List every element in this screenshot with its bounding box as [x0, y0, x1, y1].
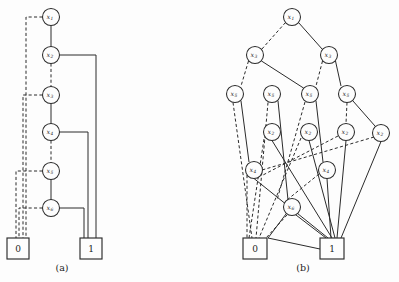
- node-sub-b6: 6: [291, 206, 294, 211]
- high-edge-b-13: [268, 214, 320, 249]
- decision-node-a-a1[interactable]: x1: [43, 9, 60, 26]
- high-edge-b-3: [241, 101, 249, 162]
- decision-node-b-b3L[interactable]: x3: [247, 47, 264, 64]
- decision-node-b-b3R[interactable]: x3: [321, 47, 338, 64]
- decision-node-b-b1[interactable]: x1: [284, 9, 301, 26]
- high-edge-b-12: [327, 179, 331, 239]
- high-edge-b-6: [353, 101, 375, 126]
- decision-node-b-b5d[interactable]: x5: [339, 86, 356, 103]
- node-sub-b4L: 4: [252, 169, 256, 174]
- node-sub-b2b: 2: [307, 131, 311, 136]
- terminal-group-b: 01: [243, 238, 344, 259]
- node-sub-b5b: 5: [271, 93, 274, 98]
- decision-node-b-b5a[interactable]: x5: [227, 86, 244, 103]
- low-edge-b-0: [262, 23, 286, 50]
- high-edge-b-2: [336, 61, 342, 86]
- panel-b: x1x3x3x5x5x5x5x2x2x2x2x4x4x601(b): [227, 9, 390, 273]
- panel-caption-b: (b): [296, 262, 310, 273]
- node-sub-b4R: 4: [325, 169, 329, 174]
- low-edge-a-4: [16, 171, 43, 238]
- terminal-node-b-bT1[interactable]: 1: [320, 238, 344, 259]
- decision-node-b-b4L[interactable]: x4: [246, 162, 263, 179]
- decision-node-b-b2b[interactable]: x2: [301, 124, 318, 141]
- panel-a: x1x2x3x4x5x601(a): [7, 9, 102, 273]
- decision-node-a-a6[interactable]: x6: [43, 200, 60, 217]
- high-edge-b-1: [262, 61, 304, 88]
- node-sub-a6: 6: [50, 207, 53, 212]
- decision-node-b-b2d[interactable]: x2: [373, 125, 390, 142]
- low-edge-b-1: [241, 61, 249, 86]
- high-edge-b-4: [278, 101, 288, 200]
- node-sub-b3L: 3: [254, 54, 257, 59]
- node-group-b: x1x3x3x5x5x5x5x2x2x2x2x4x4x6: [227, 9, 390, 216]
- node-sub-b2d: 2: [379, 132, 383, 137]
- decision-node-b-b2c[interactable]: x2: [338, 124, 355, 141]
- decision-node-a-a4[interactable]: x4: [43, 124, 60, 141]
- node-sub-a4: 4: [49, 131, 53, 136]
- terminal-label-a0: 0: [15, 244, 21, 254]
- terminal-node-a-a0[interactable]: 0: [7, 238, 29, 259]
- decision-node-a-a5[interactable]: x5: [43, 163, 60, 180]
- high-edge-b-14: [296, 215, 326, 238]
- node-sub-b2a: 2: [270, 131, 274, 136]
- node-sub-b5c: 5: [309, 93, 312, 98]
- terminal-node-b-b0[interactable]: 0: [243, 238, 267, 259]
- low-edge-b-2: [316, 61, 323, 86]
- panel-caption-a: (a): [55, 262, 68, 273]
- low-edge-b-7: [249, 139, 264, 238]
- decision-node-b-b4R[interactable]: x4: [319, 162, 336, 179]
- high-edge-a-3: [60, 55, 97, 238]
- high-edge-b-10: [341, 142, 381, 239]
- terminal-node-a-aT1[interactable]: 1: [80, 238, 102, 259]
- node-sub-b5a: 5: [234, 93, 237, 98]
- bdd-figure: x1x2x3x4x5x601(a)x1x3x3x5x5x5x5x2x2x2x2x…: [0, 0, 399, 282]
- node-sub-a2: 2: [49, 54, 53, 59]
- decision-node-b-b2a[interactable]: x2: [264, 124, 281, 141]
- node-sub-b5d: 5: [346, 93, 349, 98]
- terminal-label-bT1: 1: [329, 244, 335, 254]
- high-edge-b-0: [299, 23, 323, 50]
- low-edge-b-10: [262, 137, 374, 170]
- decision-node-b-b5b[interactable]: x5: [264, 86, 281, 103]
- bdd-canvas: x1x2x3x4x5x601(a)x1x3x3x5x5x5x5x2x2x2x2x…: [0, 0, 399, 282]
- low-edge-b-6: [346, 103, 347, 124]
- node-sub-a1: 1: [50, 16, 53, 21]
- node-sub-a3: 3: [50, 94, 53, 99]
- node-sub-b1: 1: [291, 16, 294, 21]
- decision-node-b-b5c[interactable]: x5: [302, 86, 319, 103]
- node-sub-a5: 5: [50, 170, 53, 175]
- high-edge-b-9: [337, 141, 346, 239]
- node-sub-b3R: 3: [328, 54, 331, 59]
- low-edge-a-0: [26, 17, 43, 238]
- terminal-label-aT1: 1: [88, 244, 94, 254]
- terminal-group-a: 01: [7, 238, 102, 259]
- high-edge-a-5: [60, 208, 85, 238]
- decision-node-b-b6[interactable]: x6: [284, 199, 301, 216]
- decision-node-a-a3[interactable]: x3: [43, 87, 60, 104]
- node-sub-b2c: 2: [344, 131, 348, 136]
- decision-node-a-a2[interactable]: x2: [43, 47, 60, 64]
- low-edge-b-12: [287, 174, 319, 200]
- terminal-label-b0: 0: [252, 244, 258, 254]
